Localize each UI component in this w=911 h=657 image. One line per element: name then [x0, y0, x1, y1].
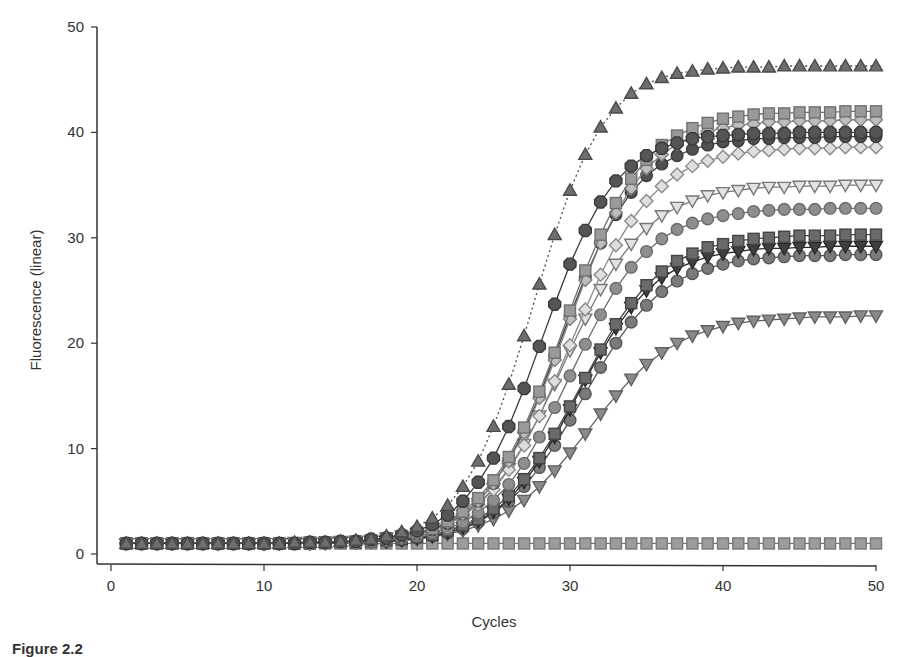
data-point — [641, 538, 652, 549]
data-point — [701, 252, 714, 263]
data-point — [671, 338, 684, 349]
data-point — [534, 431, 546, 443]
data-point — [762, 144, 775, 157]
data-point — [671, 150, 683, 162]
data-point — [732, 147, 745, 160]
data-point — [625, 261, 637, 273]
data-point — [824, 202, 836, 214]
data-point — [855, 106, 866, 117]
data-point — [625, 239, 638, 250]
data-point — [534, 386, 545, 397]
data-point — [702, 538, 713, 549]
data-point — [655, 348, 668, 359]
series-sample-4 — [120, 113, 883, 550]
data-point — [686, 133, 698, 145]
data-point — [595, 229, 606, 240]
series-sample-3 — [121, 106, 882, 549]
data-point — [426, 512, 439, 523]
data-point — [870, 59, 883, 70]
data-point — [825, 107, 836, 118]
data-point — [580, 538, 591, 549]
data-point — [762, 61, 775, 72]
data-point — [503, 479, 515, 491]
data-point — [732, 208, 744, 220]
data-point — [564, 370, 576, 382]
data-point — [717, 239, 728, 250]
data-point — [549, 402, 561, 414]
data-point — [503, 452, 514, 463]
data-point — [626, 298, 637, 309]
data-point — [794, 203, 806, 215]
data-point — [840, 538, 851, 549]
data-point — [809, 126, 821, 138]
data-point — [564, 538, 575, 549]
x-tick-label: 0 — [107, 577, 115, 594]
data-point — [748, 538, 759, 549]
data-point — [548, 228, 561, 239]
data-point — [580, 372, 591, 383]
data-point — [855, 229, 866, 240]
data-point — [549, 538, 560, 549]
x-tick-label: 10 — [256, 577, 273, 594]
data-point — [595, 309, 607, 321]
data-point — [701, 63, 714, 74]
data-point — [717, 210, 729, 222]
data-point — [747, 145, 760, 158]
data-point — [702, 213, 714, 225]
data-point — [717, 62, 730, 73]
data-point — [672, 255, 683, 266]
data-point — [610, 319, 621, 330]
data-point — [793, 59, 806, 70]
data-point — [717, 538, 728, 549]
data-point — [824, 59, 837, 70]
data-point — [656, 286, 668, 298]
data-point — [717, 113, 728, 124]
x-axis-title: Cycles — [471, 613, 516, 630]
data-point — [701, 326, 714, 337]
data-point — [701, 191, 714, 202]
y-axis-title: Fluorescence (linear) — [27, 230, 44, 371]
data-point — [778, 59, 791, 70]
data-point — [595, 362, 607, 374]
data-point — [763, 538, 774, 549]
series-sample-6 — [120, 141, 883, 550]
data-point — [840, 202, 852, 214]
data-point — [519, 422, 530, 433]
data-point — [564, 184, 577, 195]
data-point — [732, 129, 744, 141]
data-point — [824, 181, 837, 192]
data-point — [518, 329, 531, 340]
y-tick-label: 40 — [67, 123, 84, 140]
data-point — [548, 375, 561, 388]
data-point — [549, 428, 560, 439]
data-point — [626, 173, 637, 184]
x-tick-label: 20 — [409, 577, 426, 594]
data-point — [641, 246, 653, 258]
data-point — [594, 268, 607, 281]
data-point — [671, 202, 684, 213]
data-point — [487, 452, 499, 464]
data-point — [488, 538, 499, 549]
data-point — [625, 160, 637, 172]
data-point — [702, 131, 714, 143]
data-point — [610, 538, 621, 549]
data-point — [809, 538, 820, 549]
data-point — [778, 182, 791, 193]
data-point — [825, 230, 836, 241]
data-point — [655, 211, 668, 222]
data-point — [748, 233, 759, 244]
data-point — [518, 458, 530, 470]
data-point — [595, 538, 606, 549]
data-point — [870, 229, 881, 240]
data-point — [839, 59, 852, 70]
data-point — [686, 160, 699, 173]
data-point — [824, 142, 837, 155]
data-point — [687, 538, 698, 549]
data-point — [488, 475, 499, 486]
data-point — [564, 258, 576, 270]
data-point — [579, 338, 591, 350]
data-point — [855, 538, 866, 549]
data-point — [641, 280, 652, 291]
data-point — [870, 106, 881, 117]
data-point — [519, 538, 530, 549]
